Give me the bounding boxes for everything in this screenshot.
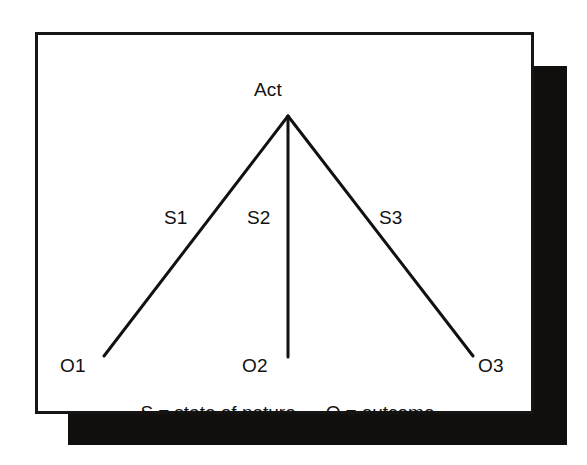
legend-symbol-s: S [140,402,153,423]
legend-entry-state: S=state of nature [140,402,295,424]
root-node-label: Act [254,79,282,101]
branch-line-s1 [104,116,288,356]
branch-label-s3: S3 [379,207,403,229]
outcome-label-o2: O2 [242,355,268,377]
legend-equals-o: = [341,402,362,423]
legend-entry-outcome: O=outcome [326,402,435,424]
diagram-card: Act S1 S2 S3 O1 O2 O3 S=state of nature … [35,32,534,414]
legend-symbol-o: O [326,402,341,423]
branch-line-s3 [288,116,473,356]
decision-tree-lines [38,35,537,417]
legend-meaning-s: state of nature [174,402,295,423]
figure-legend: S=state of nature O=outcome [38,402,537,424]
branch-label-s1: S1 [164,207,188,229]
outcome-label-o1: O1 [60,355,86,377]
decision-tree-figure: Act S1 S2 S3 O1 O2 O3 S=state of nature … [0,0,587,465]
branch-label-s2: S2 [247,207,271,229]
legend-equals-s: = [153,402,174,423]
legend-meaning-o: outcome [362,402,435,423]
outcome-label-o3: O3 [478,355,504,377]
